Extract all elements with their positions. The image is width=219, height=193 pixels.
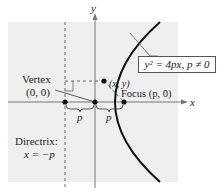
y-axis-arrow-icon xyxy=(93,13,98,20)
directrix-point xyxy=(62,99,67,104)
focus-label: Focus (p, 0) xyxy=(121,88,171,100)
vertex-title: Vertex xyxy=(22,73,51,85)
x-axis-label: x xyxy=(190,96,195,108)
directrix-equation: x = −p xyxy=(24,148,55,160)
x-axis-arrow-icon xyxy=(181,100,188,105)
p-label-right: p xyxy=(106,111,112,123)
equation-text: y² = 4px, p ≠ 0 xyxy=(144,58,209,70)
equation-box: y² = 4px, p ≠ 0 xyxy=(138,56,216,73)
focus-point xyxy=(121,99,126,104)
vertex-coords: (0, 0) xyxy=(26,86,50,98)
y-axis-label: y xyxy=(91,2,96,14)
p-label-left: p xyxy=(77,111,83,123)
curve-point xyxy=(101,78,106,83)
directrix-title: Directrix: xyxy=(15,135,58,147)
vertex-point xyxy=(92,99,97,104)
